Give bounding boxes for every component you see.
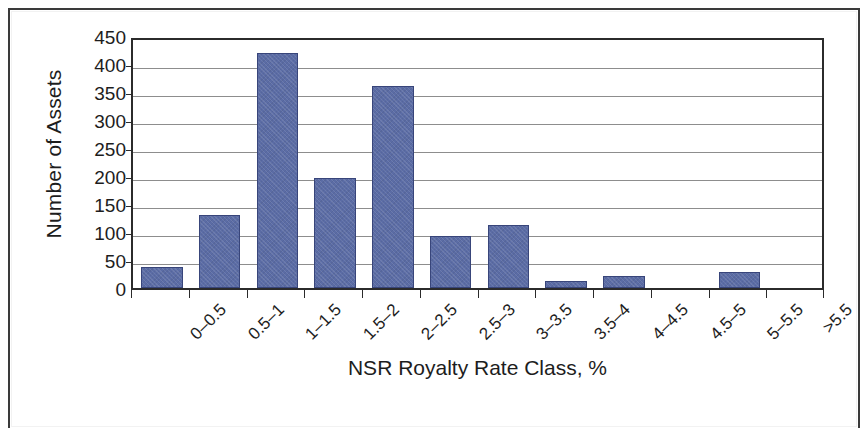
bar (199, 215, 241, 288)
x-axis-tick-label: 0–0.5 (186, 300, 230, 344)
x-axis-tick-labels: 0–0.50.5–11–1.51.5–22–2.52.5–33–3.53.5–4… (131, 300, 824, 352)
bar (719, 272, 761, 288)
bar (314, 178, 356, 288)
gridline (133, 208, 822, 209)
y-axis-tick-label: 400 (50, 55, 126, 77)
y-axis-tick-label: 200 (50, 167, 126, 189)
x-axis-tick-mark (362, 290, 363, 298)
x-axis-tick-label: 0.5–1 (244, 300, 288, 344)
x-axis-tick-mark (189, 290, 190, 298)
x-axis-tick-label: 5–5.5 (764, 300, 808, 344)
x-axis-tick-label: >5.5 (819, 300, 857, 338)
y-axis-tick-labels: 450400350300250200150100500 (46, 38, 126, 290)
y-axis-tick-label: 450 (50, 27, 126, 49)
bar (257, 53, 299, 288)
x-axis-tick-mark (535, 290, 536, 298)
x-axis-tick-label: 3–3.5 (533, 300, 577, 344)
x-axis-tick-label: 2–2.5 (417, 300, 461, 344)
bar (603, 276, 645, 288)
y-axis-tick-label: 50 (50, 251, 126, 273)
x-axis-tick-label: 4.5–5 (706, 300, 750, 344)
x-axis-tick-mark (304, 290, 305, 298)
bar (545, 281, 587, 288)
bar (430, 236, 472, 288)
x-axis-tick-mark (131, 290, 132, 298)
x-axis-tick-label: 3.5–4 (591, 300, 635, 344)
x-axis-tick-label: 4–4.5 (648, 300, 692, 344)
gridline (133, 96, 822, 97)
x-axis-tick-mark (478, 290, 479, 298)
plot-area (131, 38, 824, 290)
x-axis-tick-mark (651, 290, 652, 298)
y-axis-tick-label: 300 (50, 111, 126, 133)
x-axis-tick-label: 2.5–3 (475, 300, 519, 344)
y-axis-tick-label: 0 (50, 279, 126, 301)
x-axis-tick-mark (247, 290, 248, 298)
x-axis-tick-mark (766, 290, 767, 298)
x-axis-tick-marks (131, 290, 824, 299)
bar (141, 267, 183, 288)
gridline (133, 68, 822, 69)
bar (488, 225, 530, 288)
x-axis-tick-mark (823, 290, 824, 298)
gridline (133, 180, 822, 181)
x-axis-tick-mark (420, 290, 421, 298)
y-axis-tick-label: 150 (50, 195, 126, 217)
y-axis-tick-label: 250 (50, 139, 126, 161)
gridline (133, 152, 822, 153)
gridline (133, 124, 822, 125)
x-axis-tick-label: 1.5–2 (360, 300, 404, 344)
y-axis-tick-label: 100 (50, 223, 126, 245)
x-axis-tick-mark (709, 290, 710, 298)
x-axis-tick-mark (593, 290, 594, 298)
x-axis-tick-label: 1–1.5 (302, 300, 346, 344)
x-axis-title: NSR Royalty Rate Class, % (131, 356, 824, 380)
y-axis-tick-label: 350 (50, 83, 126, 105)
bar (372, 86, 414, 288)
